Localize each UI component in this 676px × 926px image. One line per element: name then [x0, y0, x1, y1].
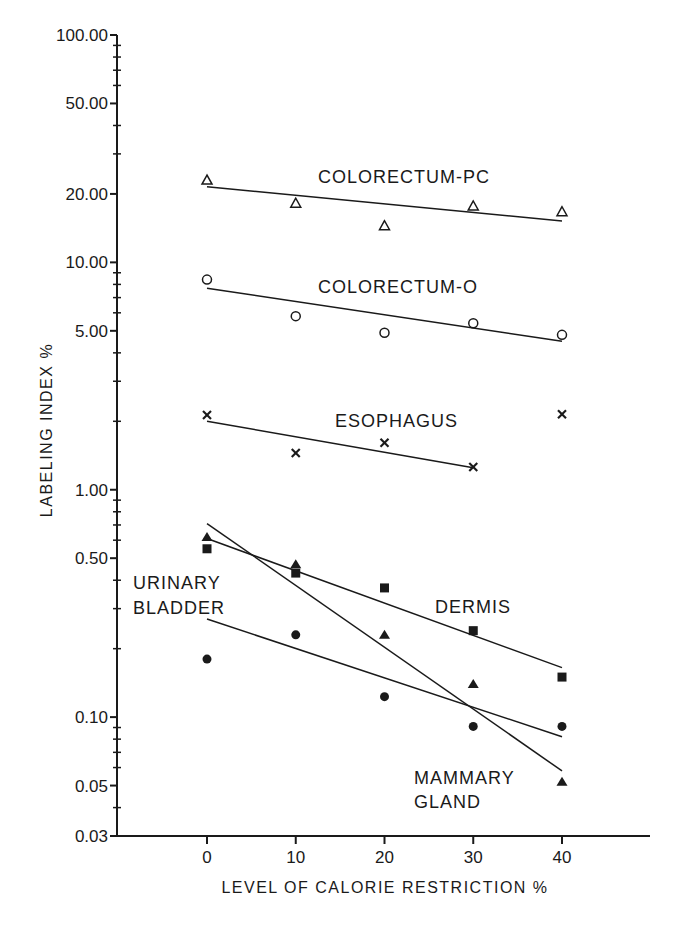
data-point: [291, 312, 300, 321]
y-tick-label: 5.00: [75, 322, 108, 341]
x-tick-label: 30: [464, 848, 483, 867]
data-point: [469, 722, 478, 731]
data-point: [558, 722, 567, 731]
data-point: [381, 439, 389, 447]
data-point: [469, 319, 478, 328]
x-axis-title: LEVEL OF CALORIE RESTRICTION %: [221, 879, 548, 896]
data-point: [558, 673, 567, 682]
label-esophagus: ESOPHAGUS: [335, 411, 458, 431]
fit-lines: [207, 187, 562, 771]
data-point: [557, 777, 568, 786]
y-tick-label: 50.00: [65, 94, 108, 113]
data-point: [203, 275, 212, 284]
y-ticks: 100.0050.0020.0010.005.001.000.500.100.0…: [56, 26, 121, 846]
y-tick-label: 0.10: [75, 708, 108, 727]
label-dermis: DERMIS: [435, 597, 511, 617]
data-point: [290, 559, 301, 568]
data-point: [558, 330, 567, 339]
label-urinary-bladder-line1: URINARY: [133, 573, 221, 593]
data-point: [203, 655, 212, 664]
data-point: [291, 198, 301, 207]
data-point: [203, 411, 211, 419]
data-point: [291, 569, 300, 578]
label-urinary-bladder-line2: BLADDER: [133, 598, 225, 618]
y-tick-label: 100.00: [56, 26, 108, 45]
data-point: [202, 175, 212, 184]
x-ticks: 010203040: [202, 836, 571, 867]
label-colorectum-pc: COLORECTUM-PC: [318, 167, 490, 187]
x-tick-label: 20: [375, 848, 394, 867]
data-point: [292, 449, 300, 457]
data-point: [469, 626, 478, 635]
chart: 100.0050.0020.0010.005.001.000.500.100.0…: [0, 0, 676, 926]
y-tick-label: 20.00: [65, 185, 108, 204]
data-point: [203, 544, 212, 553]
fit-line: [207, 524, 562, 771]
label-mammary-gland-line1: MAMMARY: [414, 768, 515, 788]
data-points: [202, 175, 568, 786]
data-point: [380, 583, 389, 592]
data-point: [468, 679, 479, 688]
y-tick-label: 0.03: [75, 827, 108, 846]
data-point: [379, 630, 390, 639]
x-tick-label: 40: [553, 848, 572, 867]
data-point: [468, 201, 478, 210]
data-point: [380, 221, 390, 230]
y-tick-label: 1.00: [75, 481, 108, 500]
data-point: [291, 630, 300, 639]
axes: [117, 35, 650, 836]
data-point: [557, 207, 567, 216]
y-tick-label: 10.00: [65, 253, 108, 272]
label-colorectum-o: COLORECTUM-O: [318, 277, 478, 297]
y-tick-label: 0.05: [75, 777, 108, 796]
data-point: [558, 410, 566, 418]
label-mammary-gland-line2: GLAND: [414, 792, 481, 812]
data-point: [380, 692, 389, 701]
x-tick-label: 0: [202, 848, 211, 867]
x-tick-label: 10: [286, 848, 305, 867]
data-point: [380, 328, 389, 337]
y-tick-label: 0.50: [75, 549, 108, 568]
fit-line: [207, 187, 562, 221]
data-point: [202, 532, 213, 541]
y-axis-title: LABELING INDEX %: [38, 343, 55, 517]
